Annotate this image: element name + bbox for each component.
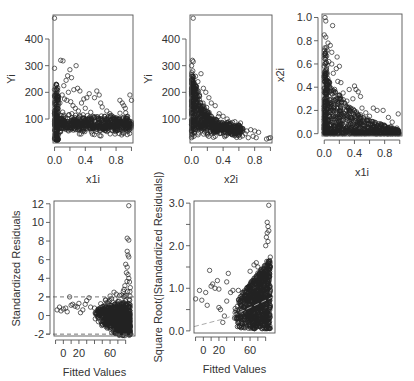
data-point bbox=[375, 108, 379, 112]
y-tick-label: 0.0 bbox=[169, 325, 184, 337]
data-point bbox=[118, 98, 122, 102]
data-point bbox=[327, 59, 331, 63]
panel-scale-location: 020600.01.02.03.0Fitted ValuesSquare Roo… bbox=[152, 172, 275, 376]
x-tick-label: 0.8 bbox=[247, 154, 262, 166]
panel-yi-vs-x1i: 0.00.40.8100200300400x1iYi bbox=[5, 15, 134, 185]
y-tick-label: 200 bbox=[25, 86, 43, 98]
data-point bbox=[267, 203, 271, 207]
x-tick-label: 0.8 bbox=[377, 147, 392, 159]
data-point bbox=[65, 310, 69, 314]
data-point bbox=[351, 97, 355, 101]
data-point bbox=[264, 244, 268, 248]
data-point bbox=[81, 308, 85, 312]
data-point bbox=[341, 91, 345, 95]
data-point bbox=[225, 299, 229, 303]
data-point bbox=[191, 16, 195, 20]
data-point bbox=[205, 303, 209, 307]
data-point bbox=[381, 108, 385, 112]
y-tick-label: 0 bbox=[38, 310, 44, 322]
x-tick-label: 0.0 bbox=[317, 147, 332, 159]
y-tick-label: 200 bbox=[162, 86, 180, 98]
data-point bbox=[207, 96, 211, 100]
x-tick-label: 0 bbox=[60, 347, 66, 359]
data-point bbox=[127, 204, 131, 208]
data-point bbox=[266, 239, 270, 243]
data-point bbox=[199, 72, 203, 76]
data-point bbox=[97, 93, 101, 97]
x-tick-label: 20 bbox=[213, 344, 225, 356]
y-tick-label: 100 bbox=[162, 113, 180, 125]
data-point bbox=[331, 71, 335, 75]
data-point bbox=[207, 268, 211, 272]
x-axis-label: x1i bbox=[355, 166, 369, 178]
data-point bbox=[213, 104, 217, 108]
x-axis-label: Fitted Values bbox=[63, 366, 127, 378]
y-tick-label: 10 bbox=[32, 216, 44, 228]
data-point bbox=[222, 314, 226, 318]
x-tick-label: 0.0 bbox=[47, 154, 62, 166]
y-axis-label: Yi bbox=[5, 74, 17, 83]
data-point bbox=[74, 63, 78, 67]
data-point bbox=[118, 111, 122, 115]
data-point bbox=[83, 106, 87, 110]
y-tick-label: 1.0 bbox=[169, 282, 184, 294]
data-point bbox=[330, 50, 334, 54]
data-point bbox=[225, 280, 229, 284]
y-tick-label: 8 bbox=[38, 235, 44, 247]
data-point bbox=[264, 235, 268, 239]
y-tick-label: 0.2 bbox=[297, 104, 312, 116]
data-point bbox=[108, 132, 112, 136]
data-point bbox=[62, 84, 66, 88]
x-axis-label: Fitted Values bbox=[203, 363, 267, 375]
data-point bbox=[87, 92, 91, 96]
y-tick-label: 400 bbox=[25, 33, 43, 45]
data-point bbox=[335, 55, 339, 59]
data-point bbox=[89, 110, 93, 114]
data-point bbox=[200, 298, 204, 302]
data-point bbox=[128, 285, 132, 289]
data-point bbox=[221, 320, 225, 324]
data-point bbox=[396, 112, 400, 116]
y-tick-label: 400 bbox=[162, 33, 180, 45]
y-tick-label: 0.6 bbox=[297, 58, 312, 70]
x-tick-label: 60 bbox=[104, 347, 116, 359]
data-point bbox=[256, 265, 260, 269]
x-tick-label: 0.4 bbox=[347, 147, 362, 159]
data-point bbox=[69, 76, 73, 80]
x-tick-label: 0.4 bbox=[78, 154, 93, 166]
y-tick-label: 1.0 bbox=[297, 11, 312, 23]
data-point bbox=[196, 80, 200, 84]
x-axis-label: x1i bbox=[86, 173, 100, 185]
data-point bbox=[265, 220, 269, 224]
y-axis-label: Standardized Residuals bbox=[10, 210, 22, 327]
data-point bbox=[92, 96, 96, 100]
x-tick-label: 0.4 bbox=[215, 154, 230, 166]
data-point bbox=[337, 64, 341, 68]
data-point bbox=[360, 106, 364, 110]
y-tick-label: 6 bbox=[38, 254, 44, 266]
y-tick-label: 0.4 bbox=[297, 81, 312, 93]
data-point bbox=[95, 89, 99, 93]
y-tick-label: 4 bbox=[38, 272, 44, 284]
data-point bbox=[246, 136, 250, 140]
y-tick-label: 100 bbox=[25, 113, 43, 125]
data-point bbox=[204, 90, 208, 94]
y-tick-label: 300 bbox=[162, 60, 180, 72]
data-point bbox=[60, 93, 64, 97]
data-point bbox=[386, 115, 390, 119]
y-tick-label: 0.0 bbox=[297, 128, 312, 140]
y-tick-label: 2.0 bbox=[169, 240, 184, 252]
data-point bbox=[347, 87, 351, 91]
y-tick-label: 0.8 bbox=[297, 35, 312, 47]
data-point bbox=[128, 93, 132, 97]
y-tick-label: 2 bbox=[38, 291, 44, 303]
panel-standardized-residuals: 02060-2024681012Fitted ValuesStandardize… bbox=[10, 198, 135, 378]
panel-x2i-vs-x1i: 0.00.40.80.00.20.40.60.81.0x1ix2i bbox=[274, 11, 402, 178]
data-point bbox=[209, 101, 213, 105]
data-point bbox=[266, 224, 270, 228]
x-tick-label: 60 bbox=[244, 344, 256, 356]
x-tick-label: 0.8 bbox=[108, 154, 123, 166]
data-point bbox=[330, 23, 334, 27]
data-point bbox=[334, 66, 338, 70]
data-point bbox=[390, 120, 394, 124]
